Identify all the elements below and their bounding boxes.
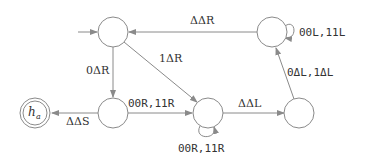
edge-q0-q2 [124,42,197,102]
edge-label-q3-q4: 0ΔL,1ΔL [287,66,334,79]
state-q1 [98,98,128,128]
state-q4 [257,17,287,47]
edge-label-q2-q3: ΔΔL [238,97,262,110]
halt-subscript: a [36,112,41,121]
edge-label-q2-self: 00R,11R [178,142,225,155]
edge-label-q0-q1: 0ΔR [86,64,110,77]
state-diagram: ΔΔR 00L,11L 0ΔR 1ΔR 00R,11R ΔΔS 00R,11R … [0,0,368,162]
state-ha: h a [20,98,50,128]
state-q2 [193,98,223,128]
halt-label: h [28,105,36,119]
edge-label-q1-ha: ΔΔS [66,115,89,128]
edge-label-q0-q2: 1ΔR [159,52,183,65]
edge-label-q1-q2: 00R,11R [128,97,175,110]
state-q0 [98,17,128,47]
edge-label-q4-self: 00L,11L [299,26,346,39]
edge-label-q4-q0: ΔΔR [190,14,215,27]
state-q3 [284,98,314,128]
